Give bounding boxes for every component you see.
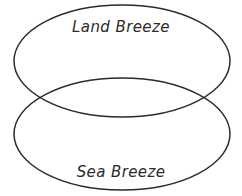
venn-label-land-breeze: Land Breeze [0,18,242,36]
venn-diagram: Land Breeze Sea Breeze [0,0,242,196]
venn-label-sea-breeze: Sea Breeze [0,163,242,181]
